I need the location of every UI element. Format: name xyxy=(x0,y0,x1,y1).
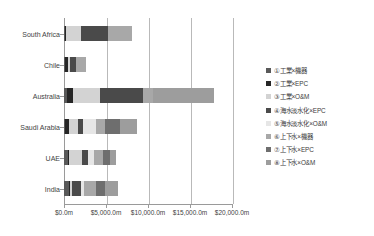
bar-segment xyxy=(103,150,110,165)
legend-swatch-icon xyxy=(266,68,271,73)
x-axis-tick xyxy=(232,204,233,208)
bar-australia xyxy=(64,88,214,103)
legend-item-8[interactable]: ⑧上下水×O&M xyxy=(266,156,372,169)
bar-segment xyxy=(120,119,137,134)
bar-segment xyxy=(153,88,214,103)
legend-item-1[interactable]: ①工業×機器 xyxy=(266,64,372,77)
bar-saudi-arabia xyxy=(64,119,137,134)
legend-label: ⑦上下水×EPC xyxy=(274,145,314,154)
y-axis-category-label: Saudi Arabia xyxy=(2,123,60,132)
bar-segment xyxy=(108,26,132,41)
legend-label: ⑧上下水×O&M xyxy=(274,158,315,167)
x-axis-tick xyxy=(148,204,149,208)
gridline xyxy=(107,18,108,204)
bar-segment xyxy=(84,181,96,196)
y-axis-category-label: UAE xyxy=(2,154,60,163)
legend-swatch-icon xyxy=(266,94,271,99)
stacked-bar-chart: South AfricaChileAustraliaSaudi ArabiaUA… xyxy=(0,0,374,236)
bar-segment xyxy=(67,88,74,103)
x-axis-tick xyxy=(190,204,191,208)
bar-segment xyxy=(96,181,105,196)
legend-item-4[interactable]: ④海水淡水化×EPC xyxy=(266,104,372,117)
bar-segment xyxy=(110,150,116,165)
bar-segment xyxy=(73,88,99,103)
bar-chile xyxy=(64,57,86,72)
bar-segment xyxy=(72,181,82,196)
legend-swatch-icon xyxy=(266,160,271,165)
y-axis-labels: South AfricaChileAustraliaSaudi ArabiaUA… xyxy=(0,18,60,204)
legend-label: ⑤海水淡水化×O&M xyxy=(274,119,327,128)
legend-swatch-icon xyxy=(266,81,271,86)
legend-item-7[interactable]: ⑦上下水×EPC xyxy=(266,143,372,156)
legend-swatch-icon xyxy=(266,134,271,139)
legend-item-3[interactable]: ③工業×O&M xyxy=(266,90,372,103)
legend-swatch-icon xyxy=(266,121,271,126)
bar-segment xyxy=(81,26,108,41)
y-axis-category-label: Australia xyxy=(2,92,60,101)
chart-legend: ①工業×機器②工業×EPC③工業×O&M④海水淡水化×EPC⑤海水淡水化×O&M… xyxy=(266,64,372,170)
x-axis-tick-label: $15,000.0m xyxy=(167,209,213,216)
plot-area xyxy=(64,18,233,204)
bar-segment xyxy=(105,119,120,134)
bar-segment xyxy=(83,119,96,134)
x-axis-tick-label: $20,000.0m xyxy=(209,209,255,216)
bar-segment xyxy=(94,150,103,165)
x-axis-tick xyxy=(106,204,107,208)
legend-label: ③工業×O&M xyxy=(274,92,309,101)
x-axis-tick xyxy=(64,204,65,208)
bar-south-africa xyxy=(64,26,132,41)
bar-segment xyxy=(96,119,105,134)
legend-item-6[interactable]: ⑥上下水×機器 xyxy=(266,130,372,143)
bar-segment xyxy=(69,150,82,165)
bar-india xyxy=(64,181,118,196)
legend-label: ④海水淡水化×EPC xyxy=(274,106,326,115)
x-axis-tick-label: $0.0m xyxy=(41,209,87,216)
legend-label: ②工業×EPC xyxy=(274,79,308,88)
legend-swatch-icon xyxy=(266,108,271,113)
y-axis-category-label: India xyxy=(2,185,60,194)
bar-segment xyxy=(100,88,143,103)
legend-label: ⑥上下水×機器 xyxy=(274,132,313,141)
bar-segment xyxy=(66,26,81,41)
legend-swatch-icon xyxy=(266,147,271,152)
bar-segment xyxy=(143,88,153,103)
gridline xyxy=(233,18,234,204)
bar-segment xyxy=(70,57,77,72)
bar-uae xyxy=(64,150,116,165)
bar-segment xyxy=(105,181,118,196)
y-axis-category-label: Chile xyxy=(2,61,60,70)
gridline xyxy=(191,18,192,204)
x-axis-tick-label: $10,000.0m xyxy=(125,209,171,216)
bar-segment xyxy=(69,119,78,134)
gridline xyxy=(149,18,150,204)
legend-item-2[interactable]: ②工業×EPC xyxy=(266,77,372,90)
bar-segment xyxy=(76,57,86,72)
y-axis-category-label: South Africa xyxy=(2,30,60,39)
legend-label: ①工業×機器 xyxy=(274,66,307,75)
x-axis-tick-label: $5,000.0m xyxy=(83,209,129,216)
legend-item-5[interactable]: ⑤海水淡水化×O&M xyxy=(266,117,372,130)
